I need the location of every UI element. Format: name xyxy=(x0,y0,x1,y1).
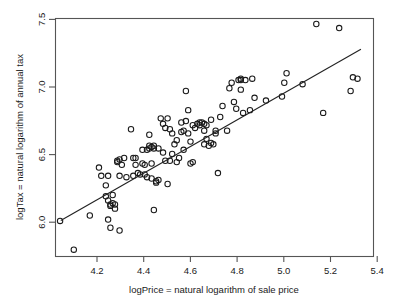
data-point xyxy=(149,161,154,166)
data-point xyxy=(165,116,170,121)
x-tick-label: 4.8 xyxy=(230,265,243,276)
data-point xyxy=(117,228,122,233)
data-point xyxy=(208,117,213,122)
data-point xyxy=(314,21,319,26)
data-point xyxy=(133,162,138,167)
data-point xyxy=(103,183,108,188)
data-point xyxy=(220,103,225,108)
scatter-plot-figure: 4.2 4.4 4.6 4.8 5.0 5.2 5.4 6.0 6.5 7.0 … xyxy=(0,0,394,307)
data-point xyxy=(96,165,101,170)
data-point xyxy=(234,106,239,111)
data-point xyxy=(252,95,257,100)
data-point xyxy=(185,131,190,136)
data-point xyxy=(117,173,122,178)
x-tick-label: 4.4 xyxy=(137,265,150,276)
data-point xyxy=(224,128,229,133)
data-point xyxy=(284,71,289,76)
data-point xyxy=(160,150,165,155)
data-point xyxy=(71,247,76,252)
data-point xyxy=(158,116,163,121)
data-point xyxy=(215,170,220,175)
y-tick-label: 7.0 xyxy=(36,80,47,93)
x-axis-tick-labels: 4.2 4.4 4.6 4.8 5.0 5.2 5.4 xyxy=(90,265,383,276)
x-tick-label: 4.2 xyxy=(90,265,103,276)
data-point xyxy=(348,88,353,93)
data-point xyxy=(202,128,207,133)
data-point xyxy=(229,80,234,85)
data-point xyxy=(57,218,62,223)
data-point xyxy=(105,217,110,222)
x-axis-title: logPrice = natural logarithm of sale pri… xyxy=(129,284,299,295)
x-tick-label: 5.0 xyxy=(277,265,290,276)
x-tick-label: 4.6 xyxy=(184,265,197,276)
y-tick-label: 6.5 xyxy=(36,148,47,161)
regression-line xyxy=(61,49,361,220)
y-axis-tick-labels: 6.0 6.5 7.0 7.5 xyxy=(36,13,47,229)
data-point xyxy=(227,86,232,91)
plot-frame xyxy=(56,19,374,257)
plot-canvas: 4.2 4.4 4.6 4.8 5.0 5.2 5.4 6.0 6.5 7.0 … xyxy=(0,0,394,307)
data-point xyxy=(320,110,325,115)
y-tick-label: 7.5 xyxy=(36,13,47,26)
data-point xyxy=(240,110,245,115)
data-point xyxy=(165,181,170,186)
regression-line-layer xyxy=(61,49,361,220)
data-point xyxy=(110,192,115,197)
data-point xyxy=(87,213,92,218)
data-point xyxy=(188,139,193,144)
data-point xyxy=(183,88,188,93)
x-tick-label: 5.4 xyxy=(371,265,384,276)
y-axis-title: logTax = natural logarithm of annual tax xyxy=(14,54,25,220)
y-tick-label: 6.0 xyxy=(36,216,47,229)
x-tick-label: 5.2 xyxy=(324,265,337,276)
data-point xyxy=(119,162,124,167)
data-point xyxy=(151,207,156,212)
data-point xyxy=(282,80,287,85)
data-point xyxy=(105,173,110,178)
data-point xyxy=(99,173,104,178)
data-point xyxy=(231,99,236,104)
data-point xyxy=(147,132,152,137)
data-point xyxy=(238,87,243,92)
data-point xyxy=(336,25,341,30)
data-point xyxy=(185,107,190,112)
y-axis-ticks xyxy=(49,19,56,222)
data-point xyxy=(250,76,255,81)
data-point xyxy=(218,114,223,119)
data-point xyxy=(108,225,113,230)
data-point xyxy=(128,127,133,132)
data-point xyxy=(124,174,129,179)
data-points-layer xyxy=(57,21,360,252)
